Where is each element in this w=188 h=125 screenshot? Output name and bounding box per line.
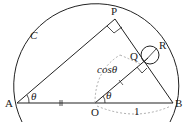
label-cos-theta: cosθ: [97, 63, 118, 75]
geometry-diagram: C A O B P Q R θ θ cosθ 1: [0, 0, 188, 125]
right-angle-p: [107, 26, 122, 33]
label-r: R: [159, 39, 167, 51]
arc-c-right: [170, 50, 179, 122]
label-one: 1: [134, 105, 140, 117]
label-theta-a: θ: [31, 90, 37, 102]
label-theta-o: θ: [106, 89, 112, 101]
right-angle-q: [137, 67, 147, 73]
label-c: C: [30, 29, 38, 41]
label-b: B: [175, 97, 182, 109]
label-o: O: [91, 106, 99, 118]
label-q: Q: [130, 50, 138, 62]
segment-qr: [144, 48, 157, 62]
label-a: A: [5, 97, 13, 109]
label-p: P: [111, 5, 117, 17]
angle-arc-o: [103, 96, 105, 103]
angle-arc-a: [27, 95, 29, 103]
